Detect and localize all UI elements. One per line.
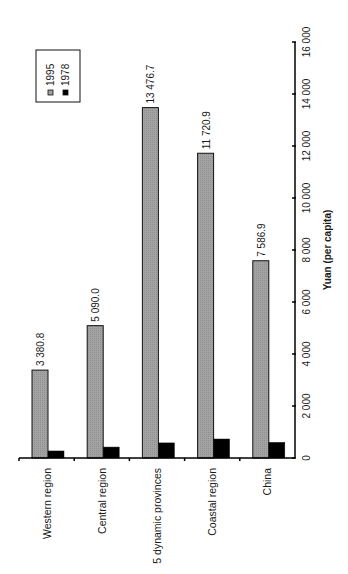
category-axis: Western regionCentral region5 dynamic pr… — [19, 458, 295, 564]
data-label: 13 476.7 — [145, 64, 156, 103]
legend: 19951978 — [36, 50, 80, 102]
value-tick-label: 2 000 — [301, 393, 312, 418]
bar-chart: 3 380.85 090.013 476.711 720.97 586.9 We… — [0, 0, 348, 574]
category-label: Central region — [96, 468, 108, 534]
legend-swatch-1978 — [63, 90, 68, 95]
value-tick-label: 12 000 — [301, 130, 312, 161]
legend-box — [36, 50, 80, 102]
bar-1978-coastal-region — [214, 439, 230, 458]
value-tick-label: 16 000 — [301, 26, 312, 57]
category-label: 5 dynamic provinces — [151, 468, 163, 564]
value-axis: 02 0004 0006 0008 00010 00012 00014 0001… — [292, 26, 312, 461]
category-label: China — [261, 468, 273, 496]
value-tick-label: 14 000 — [301, 78, 312, 109]
value-tick-label: 0 — [301, 455, 312, 461]
bar-1978-5-dynamic-provinces — [158, 443, 174, 458]
bar-1978-central-region — [103, 447, 119, 458]
category-label: Coastal region — [206, 468, 218, 536]
value-tick-label: 4 000 — [301, 341, 312, 366]
category-label: Western region — [41, 468, 53, 539]
value-tick-label: 10 000 — [301, 182, 312, 213]
bar-1995-central-region — [87, 326, 103, 458]
data-label: 3 380.8 — [35, 332, 46, 366]
data-label: 7 586.9 — [256, 223, 267, 257]
bars-group — [32, 108, 285, 458]
data-label: 5 090.0 — [90, 288, 101, 322]
value-axis-title: Yuan (per capita) — [322, 210, 333, 291]
bar-1995-coastal-region — [198, 153, 214, 458]
legend-label-1978: 1978 — [60, 63, 71, 86]
bar-1995-china — [253, 261, 269, 458]
data-label: 11 720.9 — [201, 111, 212, 150]
value-tick-label: 6 000 — [301, 289, 312, 314]
bar-1995-5-dynamic-provinces — [142, 108, 158, 458]
bar-1978-china — [269, 442, 285, 458]
bar-1978-western-region — [48, 451, 64, 458]
bar-1995-western-region — [32, 370, 48, 458]
value-tick-label: 8 000 — [301, 237, 312, 262]
legend-label-1995: 1995 — [45, 63, 56, 86]
legend-swatch-1995 — [48, 90, 53, 95]
